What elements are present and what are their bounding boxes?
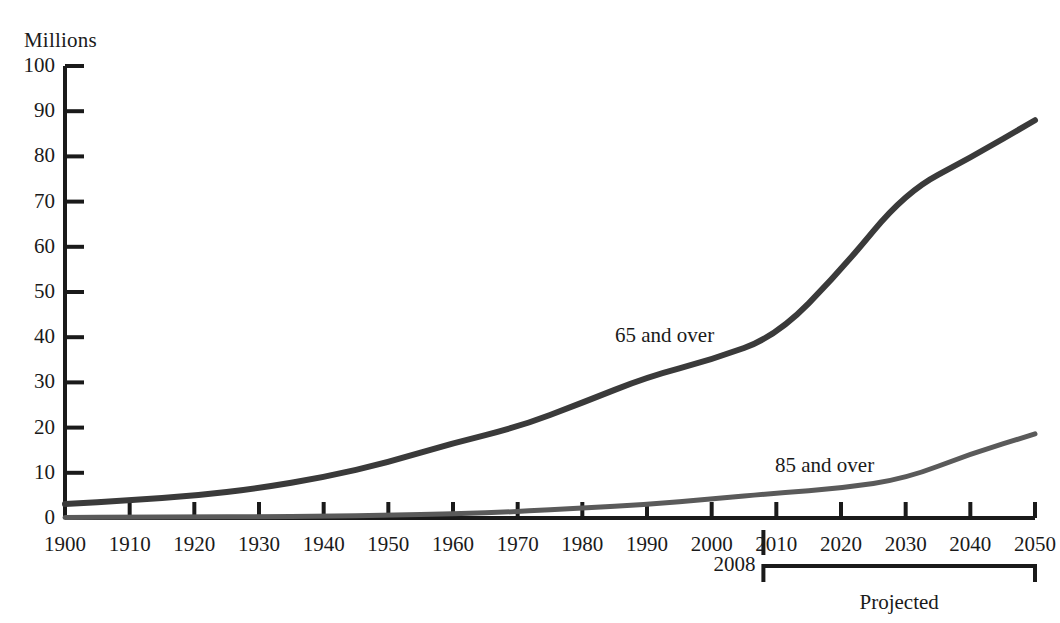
chart-plot-area bbox=[0, 0, 1060, 623]
series-line-85-and-over bbox=[65, 434, 1035, 518]
y-axis-tick-label: 60 bbox=[3, 236, 55, 257]
y-axis-tick-label: 100 bbox=[3, 55, 55, 76]
y-axis-tick-label: 30 bbox=[3, 371, 55, 392]
x-axis-tick-label: 2050 bbox=[997, 534, 1060, 555]
projected-bracket-label: Projected bbox=[763, 592, 1035, 613]
projection-bracket bbox=[763, 566, 1035, 582]
y-axis-tick-label: 20 bbox=[3, 417, 55, 438]
series-label-85-and-over: 85 and over bbox=[775, 455, 874, 476]
data-series-group bbox=[65, 120, 1035, 517]
y-axis bbox=[65, 66, 84, 518]
series-line-65-and-over bbox=[65, 120, 1035, 504]
y-axis-tick-label: 40 bbox=[3, 326, 55, 347]
y-axis-tick-label: 50 bbox=[3, 281, 55, 302]
y-axis-tick-label: 90 bbox=[3, 100, 55, 121]
series-label-65-and-over: 65 and over bbox=[615, 325, 714, 346]
year-marker-2008-label: 2008 bbox=[699, 554, 755, 575]
y-axis-tick-label: 0 bbox=[3, 507, 55, 528]
y-axis-tick-label: 70 bbox=[3, 191, 55, 212]
y-axis-tick-label: 10 bbox=[3, 462, 55, 483]
population-age-chart: Millions 0102030405060708090100 19001910… bbox=[0, 0, 1060, 623]
y-axis-tick-label: 80 bbox=[3, 145, 55, 166]
